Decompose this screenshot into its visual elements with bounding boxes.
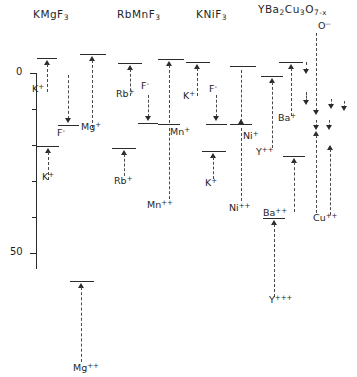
ion-label-o-ybco: O-- — [318, 20, 331, 31]
ion-label-ba-ybco: Ba+ — [278, 112, 296, 123]
stem-ni-knif3 — [241, 70, 242, 122]
stem-mg-kmgf3 — [92, 60, 93, 128]
ion-label-rb2-rbmnf3: Rb+ — [114, 175, 133, 186]
arrow-down-mini-2-ybco — [341, 106, 347, 111]
axis-tick-30 — [32, 181, 37, 182]
axis-label-0: 0 — [16, 66, 22, 77]
level-bar-f-knif3 — [206, 124, 227, 125]
ion-label-k-kmgf3: K+ — [32, 83, 44, 94]
stem-y2-ybco — [274, 224, 275, 297]
stem-f-knif3 — [216, 95, 217, 117]
level-bar-mg2-kmgf3 — [70, 281, 94, 282]
ion-label-mn2-rbmnf3: Mn++ — [147, 199, 173, 210]
ion-label-ba2-ybco: Ba++ — [263, 207, 287, 218]
ion-label-mg-kmgf3: Mg+ — [81, 121, 101, 132]
stem-o-ybco — [316, 33, 317, 111]
level-bar-mn-rbmnf3 — [158, 59, 184, 60]
group-title-kmgf3: KMgF3 — [33, 8, 69, 22]
ion-label-cu-ybco: Cu++ — [313, 212, 337, 223]
axis-tick-40 — [32, 217, 37, 218]
level-bar-rb2-rbmnf3 — [112, 148, 136, 149]
energy-level-figure: KMgF3 RbMnF3 KNiF3 YBa2Cu3O7-x 0 50 K+ F… — [0, 0, 357, 377]
level-bar-ni-knif3 — [230, 66, 256, 67]
arrow-down-mini-4-ybco — [326, 125, 332, 130]
stem-cu-upper-ybco — [316, 135, 317, 213]
arrow-down-f-kmgf3 — [65, 118, 71, 123]
ion-label-f-kmgf3: F- — [57, 127, 65, 138]
arrow-down-small-a-ybco — [303, 69, 309, 74]
axis-tick-50 — [30, 253, 37, 254]
y-axis-line — [36, 73, 37, 269]
level-bar-y-ybco — [261, 76, 283, 77]
axis-tick-0 — [30, 73, 37, 74]
level-bar-ni-low-knif3 — [230, 124, 252, 125]
level-bar-f-kmgf3 — [58, 125, 79, 126]
level-bar-k2-knif3 — [202, 151, 226, 152]
ion-label-y-ybco: Y++ — [256, 146, 274, 157]
stem-ba-ybco — [291, 68, 292, 116]
stem-mn2-rbmnf3 — [169, 128, 170, 199]
stem-k-kmgf3 — [47, 64, 48, 92]
ion-label-rb-rbmnf3: Rb+ — [116, 88, 135, 99]
ion-label-mg2-kmgf3: Mg++ — [73, 362, 99, 373]
level-bar-k-knif3 — [186, 62, 210, 63]
stem-k2-knif3 — [213, 157, 214, 179]
ion-label-mn-rbmnf3: Mn+ — [170, 126, 190, 137]
arrow-down-f-knif3 — [213, 116, 219, 121]
arrow-down-f-rbmnf3 — [145, 116, 151, 121]
stem-mn-rbmnf3 — [169, 65, 170, 123]
level-bar-ba-ybco — [279, 62, 303, 63]
stem-k-knif3 — [197, 68, 198, 96]
stem-ni2-knif3 — [241, 128, 242, 201]
group-title-knif3: KNiF3 — [196, 8, 227, 22]
arrow-down-small-b-ybco — [303, 100, 309, 105]
stem-cu-lower-ybco — [330, 149, 331, 215]
ion-label-k2-kmgf3: K+ — [42, 171, 54, 182]
level-bar-f-rbmnf3 — [138, 123, 158, 124]
level-bar-mn-low-rbmnf3 — [158, 124, 180, 125]
level-bar-ba2-ybco — [283, 156, 305, 157]
stem-y-ybco — [272, 82, 273, 148]
ion-label-k-knif3: K+ — [183, 90, 195, 101]
arrow-down-mini-1-ybco — [328, 104, 334, 109]
group-title-ybco: YBa2Cu3O7-x — [258, 3, 327, 17]
ion-label-ni2-knif3: Ni++ — [229, 202, 250, 213]
ion-label-f-rbmnf3: F- — [141, 80, 149, 91]
axis-tick-10 — [32, 109, 37, 110]
arrow-down-o-ybco — [313, 110, 319, 115]
stem-f-kmgf3 — [68, 75, 69, 119]
ion-label-y2-ybco: Y+++ — [269, 294, 292, 305]
stem-f-rbmnf3 — [148, 95, 149, 117]
stem-rb2-rbmnf3 — [124, 154, 125, 176]
axis-label-50: 50 — [10, 246, 23, 257]
level-bar-mg-kmgf3 — [80, 54, 106, 55]
ion-label-k2-knif3: K+ — [205, 177, 217, 188]
stem-mg2-kmgf3 — [81, 287, 82, 362]
stem-ba2-ybco — [294, 162, 295, 212]
ion-label-f-knif3: F- — [209, 83, 217, 94]
ion-label-ni-knif3: Ni+ — [243, 130, 259, 141]
level-bar-rb-rbmnf3 — [118, 63, 142, 64]
level-bar-y2-ybco — [263, 218, 285, 219]
level-bar-k-kmgf3 — [37, 58, 57, 59]
level-bar-k2-kmgf3 — [37, 146, 59, 147]
arrow-down-mini-3-ybco — [313, 125, 319, 130]
group-title-rbmnf3: RbMnF3 — [117, 8, 161, 22]
